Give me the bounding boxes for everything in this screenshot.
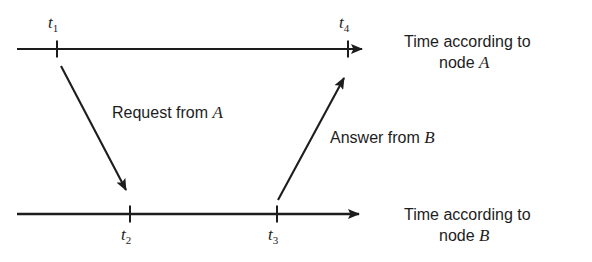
- request-message-label: Request from A: [112, 103, 223, 123]
- tick-label-t3: t3: [268, 226, 278, 246]
- timeline-a-caption-line2: node A: [404, 52, 531, 74]
- request-arrow-line: [61, 66, 126, 190]
- timeline-a-caption-line1: Time according to: [404, 31, 531, 52]
- answer-message-label: Answer from B: [330, 128, 435, 148]
- timeline-a-caption: Time according to node A: [404, 31, 531, 75]
- tick-label-t4: t4: [339, 14, 349, 34]
- timeline-b-axis: [17, 206, 359, 223]
- timeline-b-caption: Time according to node B: [404, 204, 531, 248]
- request-message-arrow: [61, 66, 126, 190]
- tick-label-t1: t1: [48, 14, 58, 34]
- timeline-b-caption-line1: Time according to: [404, 204, 531, 225]
- timing-diagram: t1 t4 t2 t3 Request from A Answer from B…: [0, 0, 592, 262]
- timeline-b-caption-line2: node B: [404, 225, 531, 247]
- tick-label-t2: t2: [121, 226, 131, 246]
- timeline-a-axis: [17, 41, 362, 58]
